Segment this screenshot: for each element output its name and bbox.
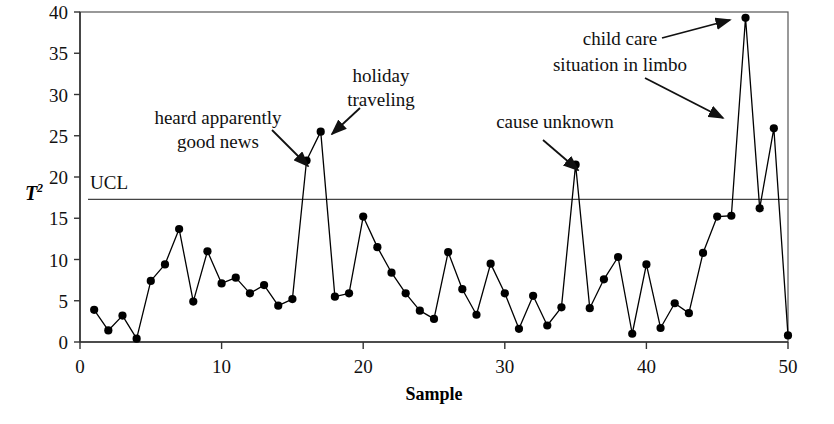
data-point-marker [288, 295, 296, 303]
x-axis-title: Sample [405, 384, 462, 404]
data-point-marker [147, 277, 155, 285]
y-tick-label: 40 [49, 2, 68, 23]
x-tick-label: 10 [212, 356, 231, 377]
data-point-marker [444, 248, 452, 256]
x-tick-label: 0 [75, 356, 85, 377]
y-tick-label: 30 [49, 85, 68, 106]
x-tick-label: 50 [779, 356, 798, 377]
data-point-marker [784, 331, 792, 339]
data-point-marker [699, 249, 707, 257]
data-point-marker [104, 326, 112, 334]
data-point-marker [458, 285, 466, 293]
data-point-marker [232, 274, 240, 282]
data-point-marker [175, 225, 183, 233]
data-point-marker [402, 289, 410, 297]
data-point-marker [529, 292, 537, 300]
data-point-marker [628, 330, 636, 338]
data-point-marker [317, 128, 325, 136]
data-point-marker [416, 307, 424, 315]
data-point-marker [161, 260, 169, 268]
data-point-marker [600, 275, 608, 283]
y-tick-label: 5 [59, 291, 69, 312]
data-point-marker [614, 253, 622, 261]
data-point-marker [359, 213, 367, 221]
data-point-marker [756, 204, 764, 212]
data-point-marker [501, 289, 509, 297]
data-point-marker [430, 315, 438, 323]
x-tick-label: 40 [637, 356, 656, 377]
data-point-marker [741, 14, 749, 22]
data-point-marker [133, 335, 141, 343]
chart-background [0, 0, 834, 424]
data-point-marker [345, 289, 353, 297]
data-point-marker [90, 306, 98, 314]
x-tick-label: 20 [354, 356, 373, 377]
x-tick-label: 30 [495, 356, 514, 377]
data-point-marker [387, 269, 395, 277]
annotation-label: cause unknown [496, 111, 614, 132]
data-point-marker [671, 299, 679, 307]
data-point-marker [260, 281, 268, 289]
chart-canvas: 0510152025303540 01020304050 UCL heard a… [0, 0, 834, 424]
data-point-marker [373, 243, 381, 251]
data-point-marker [656, 324, 664, 332]
data-point-marker [118, 312, 126, 320]
y-tick-label: 10 [49, 250, 68, 271]
y-tick-label: 0 [59, 332, 69, 353]
data-point-marker [472, 311, 480, 319]
data-point-marker [586, 304, 594, 312]
data-point-marker [218, 279, 226, 287]
data-point-marker [189, 297, 197, 305]
data-point-marker [557, 303, 565, 311]
data-point-marker [685, 309, 693, 317]
data-point-marker [515, 325, 523, 333]
data-point-marker [770, 124, 778, 132]
data-point-marker [727, 212, 735, 220]
y-tick-label: 15 [49, 208, 68, 229]
ucl-label: UCL [90, 172, 128, 193]
data-point-marker [543, 321, 551, 329]
data-point-marker [713, 213, 721, 221]
data-point-marker [642, 260, 650, 268]
control-chart: 0510152025303540 01020304050 UCL heard a… [0, 0, 834, 424]
data-point-marker [203, 247, 211, 255]
data-point-marker [274, 302, 282, 310]
y-tick-label: 25 [49, 126, 68, 147]
y-tick-label: 35 [49, 43, 68, 64]
data-point-marker [331, 293, 339, 301]
data-point-marker [487, 260, 495, 268]
y-tick-label: 20 [49, 167, 68, 188]
data-point-marker [246, 289, 254, 297]
